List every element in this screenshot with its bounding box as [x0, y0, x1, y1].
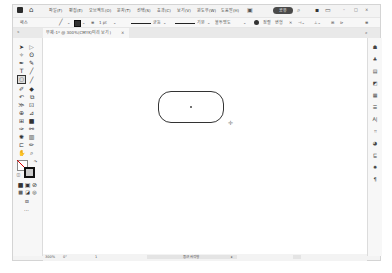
screen-mode-icon[interactable]: ⧈ [23, 197, 30, 204]
menu-help[interactable]: 도움말(H) [221, 8, 239, 13]
recolor-icon[interactable] [254, 20, 259, 25]
shaper-tool-icon[interactable]: ◆ [28, 85, 35, 92]
stroke-dropdown-icon[interactable]: ⌄ [82, 20, 85, 25]
curvature-tool-icon[interactable]: ✎ [28, 59, 35, 66]
zoom-tool-icon[interactable]: ⌕ [28, 149, 35, 156]
draw-normal-icon[interactable]: ▩ [17, 189, 24, 196]
brush-definition-preview[interactable] [175, 23, 195, 24]
menu-type[interactable]: 문자(T) [117, 8, 131, 13]
rotation-value[interactable]: 0° [63, 255, 67, 260]
default-fill-stroke-icon[interactable]: ◫ [15, 171, 22, 178]
brush-dropdown-icon[interactable]: ⌄ [163, 20, 166, 25]
fill-dropdown-icon[interactable]: ⌄ [67, 20, 70, 25]
stroke-swatch-tools[interactable] [24, 167, 35, 178]
stroke-weight-dropdown-icon[interactable]: ⌄ [113, 20, 116, 25]
share-button[interactable]: 공유 [273, 7, 293, 14]
shape-builder-tool-icon[interactable]: ⊕ [18, 109, 25, 116]
profile-dropdown-icon[interactable]: ⌄ [207, 20, 210, 25]
libraries-panel-icon[interactable]: ▤ [371, 68, 379, 75]
document-tab[interactable]: 무제-1* @ 300%(CMYK/미리 보기) × [43, 28, 129, 38]
home-icon[interactable]: ⌂ [29, 6, 33, 14]
menu-effect[interactable]: 효과(C) [157, 8, 171, 13]
panel-toggle-icon[interactable]: ▭ [325, 7, 331, 12]
arrange-icon[interactable]: ⊳ [340, 20, 343, 25]
color-mode-icon[interactable]: ■ [17, 181, 24, 188]
status-arrow-icon[interactable]: ▸ [231, 255, 233, 260]
appearance-panel-icon[interactable]: ◕ [371, 140, 379, 147]
draw-behind-icon[interactable]: ◪ [24, 189, 31, 196]
align-panel-icon[interactable]: ⊑ [371, 152, 379, 159]
brushes-panel-icon[interactable]: ¶ [371, 176, 379, 183]
slice-tool-icon[interactable]: ✏ [28, 141, 35, 148]
column-graph-tool-icon[interactable]: ▥ [28, 133, 35, 140]
arrange-docs-icon[interactable]: ▣ [247, 7, 253, 12]
eyedropper-tool-icon[interactable]: ✑ [18, 125, 25, 132]
character-panel-icon[interactable]: A| [371, 116, 379, 123]
align-options-icon[interactable]: ⊣⌄ [298, 20, 305, 25]
menu-edit[interactable]: 편집(E) [69, 8, 83, 13]
properties-panel-icon[interactable]: ☗ [371, 44, 379, 51]
width-tool-icon[interactable]: ≫ [18, 101, 25, 108]
fill-icon[interactable]: ╱ [59, 19, 63, 24]
hand-tool-icon[interactable]: ✋ [18, 149, 25, 156]
panel-collapse-icon[interactable]: » [365, 30, 367, 35]
transform-panel-icon[interactable]: ⌗ [371, 128, 379, 135]
symbol-sprayer-tool-icon[interactable]: ✺ [18, 133, 25, 140]
stroke-panel-icon[interactable]: ☰ [371, 104, 379, 111]
pathfinder-panel-icon[interactable]: ✹ [371, 164, 379, 171]
tools-collapse-icon[interactable]: « [17, 29, 19, 34]
artboard-tool-icon[interactable]: ⊏ [18, 141, 25, 148]
transform-button[interactable]: 변형 [275, 20, 283, 25]
menu-select[interactable]: 선택(S) [137, 8, 151, 13]
minimize-icon[interactable]: – [343, 7, 345, 12]
maximize-icon[interactable]: □ [354, 7, 358, 12]
align-button[interactable]: 정렬 [263, 20, 271, 25]
menu-window[interactable]: 윈도우(W) [197, 8, 216, 13]
mesh-tool-icon[interactable]: ⊞ [18, 117, 25, 124]
tab-close-icon[interactable]: × [121, 30, 124, 35]
zoom-level[interactable]: 300% [45, 255, 55, 260]
menu-view[interactable]: 보기(V) [177, 8, 191, 13]
isolate-icon[interactable]: ✕ [289, 20, 292, 25]
workspace-icon[interactable]: ▪ [315, 7, 319, 12]
gradient-tool-icon[interactable]: ■ [28, 117, 35, 124]
pencil-tool-icon[interactable]: ✐ [18, 85, 25, 92]
line-tool-icon[interactable]: ╱ [28, 67, 35, 74]
selection-tool-icon[interactable]: ➤ [18, 43, 25, 50]
direct-selection-tool-icon[interactable]: ▷ [28, 43, 35, 50]
grid-icon[interactable]: ⊞ [331, 20, 334, 25]
magic-wand-tool-icon[interactable]: ✧ [18, 51, 25, 58]
menu-file[interactable]: 파일(F) [49, 8, 62, 13]
horizontal-scrollbar-thumb[interactable] [293, 255, 301, 259]
control-menu-icon[interactable]: ≡ [365, 20, 368, 25]
color-panel-icon[interactable]: ◩ [371, 80, 379, 87]
none-mode-icon[interactable]: ⊘ [31, 181, 38, 188]
variable-width-preview[interactable] [131, 23, 151, 24]
search-icon[interactable]: ⌕ [297, 7, 300, 12]
opacity-label[interactable]: 불투명도 [215, 20, 231, 25]
swatches-panel-icon[interactable]: ▦ [371, 92, 379, 99]
opacity-dropdown-icon[interactable]: ⌄ [243, 20, 246, 25]
type-tool-icon[interactable]: T [18, 67, 25, 74]
lasso-tool-icon[interactable]: ʘ [28, 51, 35, 58]
layers-panel-icon[interactable]: ♣ [371, 56, 379, 63]
paintbrush-tool-icon[interactable]: ╱ [28, 76, 35, 83]
menu-object[interactable]: 오브젝트(O) [89, 8, 111, 13]
stroke-weight-stepper[interactable]: 1 pt [99, 20, 107, 25]
pen-tool-icon[interactable]: ✒ [18, 59, 25, 66]
close-icon[interactable]: × [365, 7, 368, 12]
rounded-rectangle-tool-icon[interactable]: ▢ [17, 75, 26, 84]
artboard-navigator[interactable]: 1 [95, 255, 97, 260]
free-transform-tool-icon[interactable]: ⊡ [28, 101, 35, 108]
gradient-mode-icon[interactable]: ▣ [24, 181, 31, 188]
scale-tool-icon[interactable]: ⧉ [28, 93, 35, 100]
swap-fill-stroke-icon[interactable]: ↷ [32, 158, 39, 165]
canvas[interactable]: ✛ [43, 38, 367, 256]
edit-toolbar-icon[interactable]: ··· [23, 207, 30, 214]
blend-tool-icon[interactable]: ⚯ [28, 125, 35, 132]
rotate-tool-icon[interactable]: ↶ [18, 93, 25, 100]
draw-inside-icon[interactable]: ◎ [31, 189, 38, 196]
stroke-swatch[interactable] [74, 20, 81, 27]
distribute-icon[interactable]: ⊥⌄ [314, 20, 321, 25]
perspective-tool-icon[interactable]: ⊿ [28, 109, 35, 116]
